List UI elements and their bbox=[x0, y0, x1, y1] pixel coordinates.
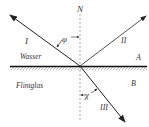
refraction-diagram: N I II III Wasser Flintglas A B φ χ bbox=[0, 0, 149, 127]
label-region-a: A bbox=[135, 53, 141, 62]
label-reflected-ray: II bbox=[120, 36, 127, 45]
label-angle-phi: φ bbox=[62, 34, 67, 44]
label-normal: N bbox=[76, 4, 84, 14]
label-region-b: B bbox=[131, 79, 136, 88]
label-angle-chi: χ bbox=[84, 90, 90, 100]
label-medium-water: Wasser bbox=[20, 52, 41, 61]
label-incident-ray: I bbox=[24, 36, 29, 46]
chi-arrow-right bbox=[91, 89, 97, 93]
interface-hatching bbox=[10, 67, 147, 70]
label-medium-flint: Flintglas bbox=[15, 81, 43, 90]
label-refracted-ray: III bbox=[99, 103, 108, 112]
